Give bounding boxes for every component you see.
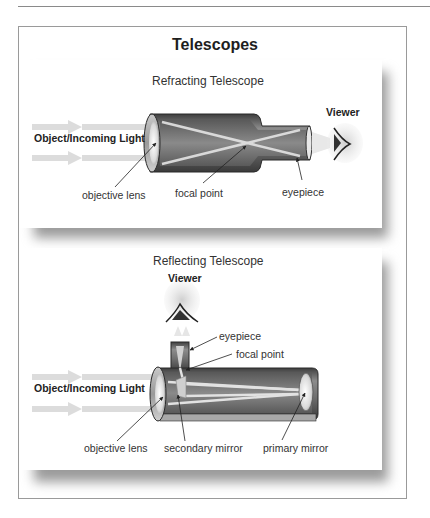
reflecting-eyepiece-label: eyepiece <box>219 330 261 342</box>
refracting-eyepiece-label: eyepiece <box>282 186 324 198</box>
refracting-incoming-light-label: Object/Incoming Light <box>34 132 145 144</box>
refracting-focal-point-label: focal point <box>175 187 223 199</box>
reflecting-primary-mirror-label: primary mirror <box>263 442 328 454</box>
viewer-eye-icon <box>327 123 363 163</box>
refracting-telescope <box>32 114 363 187</box>
reflecting-telescope <box>32 280 318 441</box>
refracting-objective-lens-label: objective lens <box>82 189 146 201</box>
reflecting-objective-lens-label: objective lens <box>84 442 148 454</box>
reflecting-secondary-mirror-label: secondary mirror <box>164 442 243 454</box>
reflecting-viewer-label: Viewer <box>168 272 202 284</box>
reflecting-incoming-light-label: Object/Incoming Light <box>34 382 145 394</box>
reflecting-subtitle: Reflecting Telescope <box>153 254 264 268</box>
refracting-viewer-label: Viewer <box>326 106 360 118</box>
reflecting-focal-point-label: focal point <box>236 348 284 360</box>
refracting-subtitle: Refracting Telescope <box>152 74 264 88</box>
viewer-eye-icon <box>164 280 200 322</box>
